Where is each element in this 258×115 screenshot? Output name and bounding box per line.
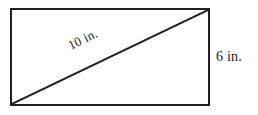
diagonal-line: [12, 10, 208, 104]
geometry-figure: 10 in. 6 in.: [0, 0, 258, 115]
height-length-label: 6 in.: [216, 50, 242, 64]
